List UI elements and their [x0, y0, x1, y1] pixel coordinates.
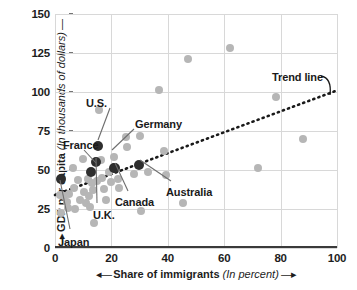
gridline-horizontal: [55, 170, 337, 171]
data-point[interactable]: [144, 168, 152, 176]
gridline-horizontal: [55, 92, 337, 93]
y-axis-tick-labels: 0255075100125150: [18, 14, 50, 248]
data-point-canada[interactable]: [110, 163, 120, 173]
y-axis-tick-label: 50: [38, 164, 50, 176]
gridline-vertical: [337, 14, 338, 248]
data-point[interactable]: [89, 186, 97, 194]
data-point-japan[interactable]: [56, 174, 66, 184]
gridline-vertical: [281, 14, 282, 248]
x-axis-tick-label: 80: [274, 252, 286, 264]
x-axis-tick-label: 20: [105, 252, 117, 264]
data-point[interactable]: [100, 185, 108, 193]
x-axis-title-bold: Share of immigrants: [113, 268, 219, 280]
y-axis-tick-label: 75: [38, 125, 50, 137]
y-axis-tick-label: 25: [38, 203, 50, 215]
x-axis-title-units: (In percent): [223, 268, 279, 280]
data-point[interactable]: [69, 164, 77, 172]
data-point-australia[interactable]: [134, 160, 144, 170]
data-point[interactable]: [74, 176, 82, 184]
data-point-france[interactable]: [86, 167, 96, 177]
data-point[interactable]: [226, 44, 234, 52]
data-point[interactable]: [70, 184, 78, 192]
y-axis-tick-label: 100: [31, 86, 50, 98]
data-point[interactable]: [102, 196, 110, 204]
annotation-france: France: [63, 139, 98, 151]
gridline-horizontal: [55, 131, 337, 132]
data-point-uk[interactable]: [91, 157, 101, 167]
scatter-chart-figure: 0255075100125150 —▸ GDP per capita (In t…: [0, 0, 357, 290]
gridline-vertical: [224, 14, 225, 248]
data-point[interactable]: [162, 171, 170, 179]
data-point[interactable]: [137, 207, 145, 215]
annotation-australia: Australia: [166, 186, 212, 198]
y-axis-tick-label: 150: [31, 8, 50, 20]
gridline-vertical: [168, 14, 169, 248]
data-point[interactable]: [184, 55, 192, 63]
data-point[interactable]: [114, 175, 122, 183]
gridline-horizontal: [55, 14, 337, 15]
x-axis-tick-label: 0: [52, 252, 58, 264]
data-point[interactable]: [110, 153, 118, 161]
x-axis-tick-labels: 020406080100: [55, 248, 337, 266]
x-axis-tick-label: 40: [162, 252, 174, 264]
data-point[interactable]: [115, 184, 123, 192]
data-point[interactable]: [272, 93, 280, 101]
annotation-u-s: U.S.: [86, 97, 107, 109]
y-axis-tick-label: 125: [31, 47, 50, 59]
annotation-japan: Japan: [58, 236, 89, 248]
data-point[interactable]: [71, 205, 79, 213]
gridline-horizontal: [55, 53, 337, 54]
annotation-u-k: U.K.: [93, 209, 115, 221]
gridline-vertical: [55, 14, 56, 248]
data-point[interactable]: [130, 170, 138, 178]
annotation-canada: Canada: [115, 196, 154, 208]
data-point[interactable]: [179, 199, 187, 207]
annotation-trend-line: Trend line: [272, 71, 323, 83]
x-axis-tick-label: 60: [218, 252, 230, 264]
data-point[interactable]: [254, 164, 262, 172]
x-axis-arrow-left: ◂—: [96, 268, 113, 280]
data-point[interactable]: [160, 147, 168, 155]
data-point[interactable]: [123, 143, 131, 151]
data-point[interactable]: [299, 135, 307, 143]
data-point[interactable]: [136, 132, 144, 140]
data-point[interactable]: [155, 86, 163, 94]
y-axis-tick-label: 0: [44, 242, 50, 254]
x-axis-title: ◂— Share of immigrants (In percent) —▸: [55, 268, 337, 281]
data-point[interactable]: [79, 155, 87, 163]
x-axis-arrow-right: —▸: [279, 268, 296, 280]
x-axis-tick-label: 100: [328, 252, 347, 264]
data-point[interactable]: [122, 133, 130, 141]
annotation-germany: Germany: [135, 118, 182, 130]
